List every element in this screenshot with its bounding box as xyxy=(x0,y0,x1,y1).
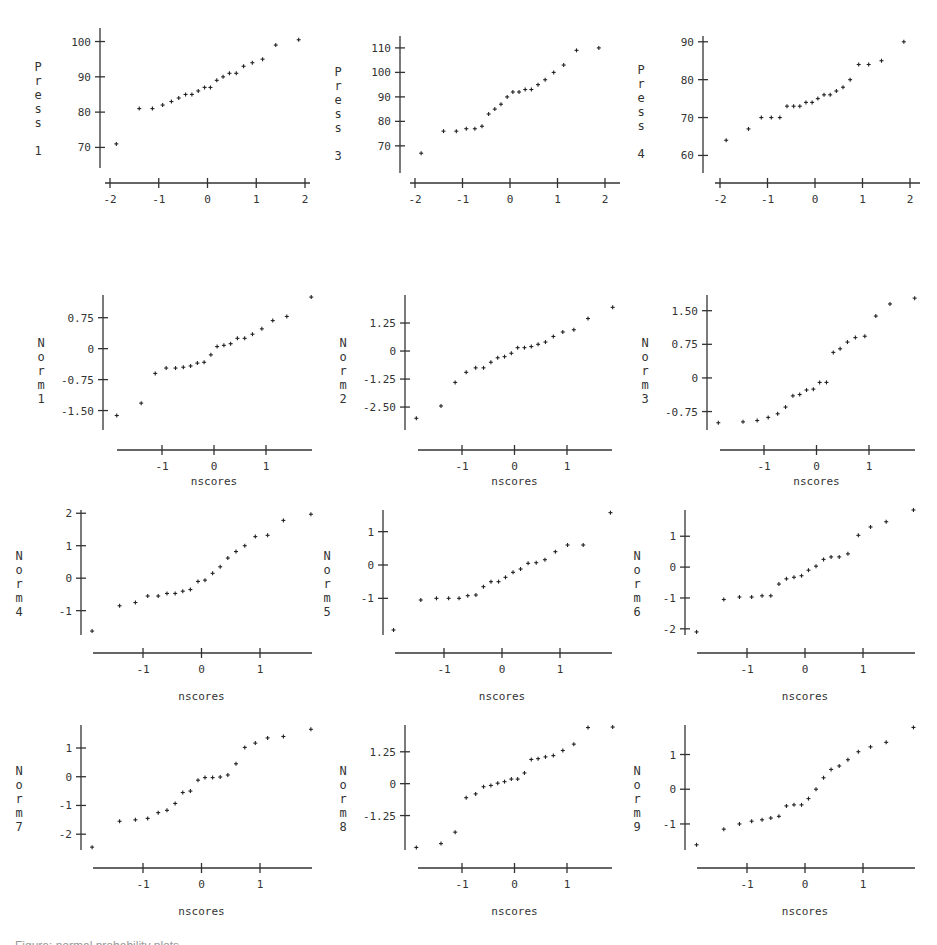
svg-text:r: r xyxy=(334,79,341,93)
svg-text:m: m xyxy=(15,806,22,820)
y-tick-label: 1 xyxy=(669,530,676,543)
y-tick-label: 0 xyxy=(65,572,72,585)
x-tick-label: -2 xyxy=(408,193,421,206)
qq-plot-norm-3: -0.7500.751.50-101nscoresNorm3 xyxy=(625,295,935,510)
svg-text:3: 3 xyxy=(334,149,341,163)
data-points xyxy=(716,296,916,425)
x-tick-label: 1 xyxy=(257,878,264,891)
x-tick-label: 0 xyxy=(211,460,218,473)
y-axis-label: Norm2 xyxy=(339,336,346,406)
qq-plot-press-4: 60708090-2-1012nscoresPress4 xyxy=(625,8,935,223)
plot-canvas: -1012-101nscoresNorm4 xyxy=(5,505,315,720)
svg-text:o: o xyxy=(633,778,640,792)
x-tick-label: 1 xyxy=(866,460,873,473)
x-tick-label: 1 xyxy=(557,663,564,676)
data-points xyxy=(724,40,906,142)
y-tick-label: 0 xyxy=(669,783,676,796)
x-tick-label: -1 xyxy=(456,193,469,206)
svg-text:P: P xyxy=(637,63,644,77)
x-tick-label: 1 xyxy=(859,193,866,206)
y-tick-label: 0 xyxy=(389,345,396,358)
y-axis-label: Norm3 xyxy=(641,336,648,406)
x-tick-label: 0 xyxy=(511,878,518,891)
svg-text:4: 4 xyxy=(637,147,644,161)
x-tick-label: 1 xyxy=(564,878,571,891)
x-tick-label: -1 xyxy=(155,460,168,473)
y-axis-label: Norm6 xyxy=(633,549,640,619)
svg-text:2: 2 xyxy=(339,392,346,406)
y-axis-label: Press4 xyxy=(637,63,644,161)
y-tick-label: -1.25 xyxy=(363,373,396,386)
x-tick-label: 0 xyxy=(802,878,809,891)
svg-text:N: N xyxy=(641,336,648,350)
x-tick-label: 0 xyxy=(204,193,211,206)
svg-text:s: s xyxy=(334,121,341,135)
x-tick-label: 0 xyxy=(198,878,205,891)
y-tick-label: 80 xyxy=(78,106,91,119)
qq-plot-norm-5: -101-101nscoresNorm5 xyxy=(315,505,625,720)
svg-text:1: 1 xyxy=(37,392,44,406)
x-axis-label: nscores xyxy=(479,690,525,703)
plot-canvas: -1.50-0.7500.75-101nscoresNorm1 xyxy=(5,295,315,510)
x-tick-label: 1 xyxy=(564,460,571,473)
y-tick-label: -1.25 xyxy=(363,810,396,823)
svg-text:e: e xyxy=(334,93,341,107)
x-tick-label: 0 xyxy=(499,663,506,676)
svg-text:5: 5 xyxy=(323,605,330,619)
x-tick-label: 1 xyxy=(554,193,561,206)
y-tick-label: 70 xyxy=(378,140,391,153)
y-axis-label: Norm9 xyxy=(633,764,640,834)
x-axis-label: nscores xyxy=(178,905,224,918)
x-axis-label: nscores xyxy=(491,905,537,918)
x-tick-label: 2 xyxy=(602,193,609,206)
y-tick-label: -2.50 xyxy=(363,401,396,414)
y-tick-label: 100 xyxy=(371,66,391,79)
x-axis-label: nscores xyxy=(782,905,828,918)
x-tick-label: -1 xyxy=(761,193,774,206)
svg-text:o: o xyxy=(339,350,346,364)
y-tick-label: -1 xyxy=(663,592,676,605)
qq-plot-press-3: 708090100110-2-1012nscoresPress3 xyxy=(315,8,625,223)
data-points xyxy=(90,727,313,849)
svg-text:r: r xyxy=(633,792,640,806)
svg-text:N: N xyxy=(15,764,22,778)
svg-text:r: r xyxy=(633,577,640,591)
qq-plot-norm-9: -101-101nscoresNorm9 xyxy=(625,720,935,935)
y-axis-label: Norm8 xyxy=(339,764,346,834)
qq-plot-press-1: 708090100-2-1012nscoresPress1 xyxy=(5,8,315,223)
y-tick-label: -2 xyxy=(59,828,72,841)
data-points xyxy=(419,46,601,155)
svg-text:o: o xyxy=(339,778,346,792)
y-tick-label: -2 xyxy=(663,623,676,636)
svg-text:r: r xyxy=(339,364,346,378)
svg-text:7: 7 xyxy=(15,820,22,834)
svg-text:N: N xyxy=(633,764,640,778)
y-tick-label: 80 xyxy=(681,74,694,87)
svg-text:o: o xyxy=(15,563,22,577)
y-tick-label: 1.50 xyxy=(672,305,699,318)
data-points xyxy=(90,512,313,633)
x-tick-label: 2 xyxy=(302,193,309,206)
svg-text:6: 6 xyxy=(633,605,640,619)
svg-text:m: m xyxy=(15,591,22,605)
data-points xyxy=(695,508,916,634)
x-tick-label: -1 xyxy=(740,878,753,891)
plot-canvas: -2-101-101nscoresNorm7 xyxy=(5,720,315,935)
y-axis-label: Norm7 xyxy=(15,764,22,834)
y-tick-label: 70 xyxy=(78,141,91,154)
svg-text:r: r xyxy=(339,792,346,806)
svg-text:r: r xyxy=(641,364,648,378)
x-tick-label: -1 xyxy=(136,663,149,676)
plot-canvas: -101-101nscoresNorm5 xyxy=(315,505,625,720)
x-tick-label: 1 xyxy=(257,663,264,676)
svg-text:m: m xyxy=(323,591,330,605)
y-tick-label: 0 xyxy=(389,778,396,791)
x-tick-label: 1 xyxy=(263,460,270,473)
y-tick-label: 0 xyxy=(65,771,72,784)
svg-text:r: r xyxy=(15,792,22,806)
plot-canvas: 708090100110-2-1012nscoresPress3 xyxy=(315,8,625,223)
y-axis-label: Norm1 xyxy=(37,336,44,406)
svg-text:m: m xyxy=(339,806,346,820)
y-tick-label: -0.75 xyxy=(61,374,94,387)
svg-text:m: m xyxy=(633,806,640,820)
